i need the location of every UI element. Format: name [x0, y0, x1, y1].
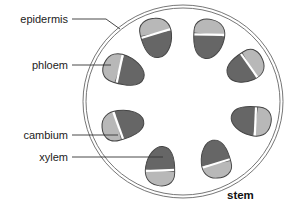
- epidermis-leader-line: [72, 19, 120, 29]
- cambium-label: cambium: [8, 129, 68, 141]
- epidermis-label: epidermis: [8, 13, 68, 25]
- epidermis-inner-ring: [86, 8, 280, 195]
- diagram-title: stem: [227, 189, 254, 201]
- phloem-label: phloem: [8, 59, 68, 71]
- xylem-label: xylem: [8, 151, 68, 163]
- stem-cross-section-diagram: [0, 0, 294, 211]
